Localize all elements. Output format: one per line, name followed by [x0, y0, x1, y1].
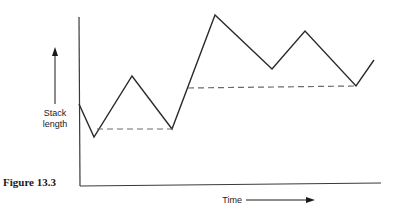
right-arrowhead-icon — [306, 197, 315, 203]
y-axis — [79, 17, 80, 186]
figure-diagram: Stack length Time Figure 13.3 — [0, 0, 393, 209]
figure-caption: Figure 13.3 — [3, 176, 56, 188]
stack-length-line — [79, 15, 374, 137]
x-label: Time — [222, 195, 242, 205]
up-arrowhead-icon — [52, 47, 58, 56]
y-label-line1: Stack — [44, 108, 67, 118]
dashed-baseline-2 — [188, 86, 356, 88]
x-axis — [80, 183, 381, 186]
y-label-line2: length — [43, 119, 68, 129]
